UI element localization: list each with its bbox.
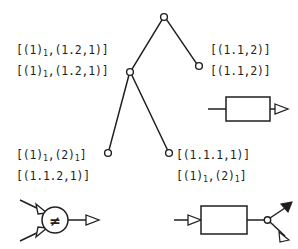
label-text: ,(1.2,1)] bbox=[48, 43, 109, 57]
label-text: [(1.1.1,1)] bbox=[176, 148, 250, 162]
tree-node-root bbox=[161, 14, 168, 21]
label-text: [(1) bbox=[16, 64, 43, 78]
comparator-glyph-not-equal: ≠ bbox=[49, 213, 61, 229]
fork-branch-arrowhead-lower bbox=[279, 232, 289, 242]
tree-node-internal bbox=[127, 69, 134, 76]
tree-edge-internal-leafbottomleft bbox=[109, 75, 129, 149]
top-right-label: [(1.1,2)][(1.1,2)] bbox=[210, 40, 271, 82]
label-text: ] bbox=[240, 169, 247, 183]
label-text: [(1) bbox=[16, 43, 43, 57]
binary-tree-graph bbox=[105, 14, 203, 157]
process-box-body bbox=[226, 97, 270, 121]
fork-box-input-arrowhead bbox=[188, 215, 201, 225]
label-text: [(1) bbox=[16, 148, 43, 162]
fork-junction-node bbox=[264, 217, 270, 223]
tree-node-leaf-bottom-right bbox=[166, 150, 173, 157]
label-text: ,(2) bbox=[48, 148, 75, 162]
label-line-2: [(1)1,(1.2,1)] bbox=[16, 61, 108, 82]
label-text: [(1.1,2)] bbox=[210, 43, 271, 57]
process-box-output-arrowhead bbox=[275, 104, 288, 114]
label-line-2: [(1)1,(2)1] bbox=[176, 166, 250, 187]
top-left-label: [(1)1,(1.2,1)][(1)1,(1.2,1)] bbox=[16, 40, 108, 82]
label-text: [(1) bbox=[176, 169, 203, 183]
tree-edge-root-internal bbox=[132, 20, 162, 69]
label-line-1: [(1)1,(2)1] bbox=[16, 145, 90, 166]
comparator-output-arrowhead bbox=[86, 215, 99, 225]
tree-node-leaf-right bbox=[196, 63, 203, 70]
tree-node-leaf-bottom-left bbox=[105, 150, 112, 157]
label-line-2: [(1.1.2,1)] bbox=[16, 166, 90, 187]
label-line-1: [(1)1,(1.2,1)] bbox=[16, 40, 108, 61]
fork-branch-line-lower bbox=[270, 222, 285, 236]
label-text: ] bbox=[80, 148, 87, 162]
figure-canvas: ≠ bbox=[0, 0, 298, 249]
inequality-comparator-symbol: ≠ bbox=[20, 200, 99, 241]
label-line-1: [(1.1,2)] bbox=[210, 40, 271, 61]
tree-edge-internal-leafbottomright bbox=[132, 75, 168, 150]
label-line-2: [(1.1,2)] bbox=[210, 61, 271, 82]
tree-edge-root-leaf-right bbox=[167, 20, 197, 64]
label-text: [(1.1,2)] bbox=[210, 64, 271, 78]
bottom-left-label: [(1)1,(2)1][(1.1.2,1)] bbox=[16, 145, 90, 187]
label-text: ,(2) bbox=[208, 169, 235, 183]
process-box-symbol bbox=[208, 97, 288, 121]
fork-box-symbol bbox=[174, 202, 292, 242]
bottom-right-label: [(1.1.1,1)][(1)1,(2)1] bbox=[176, 145, 250, 187]
tree-edges bbox=[109, 20, 197, 150]
label-text: ,(1.2,1)] bbox=[48, 64, 109, 78]
label-text: [(1.1.2,1)] bbox=[16, 169, 90, 183]
fork-box-body bbox=[201, 206, 247, 234]
label-line-1: [(1.1.1,1)] bbox=[176, 145, 250, 166]
fork-branch-arrowhead-upper bbox=[281, 202, 292, 212]
